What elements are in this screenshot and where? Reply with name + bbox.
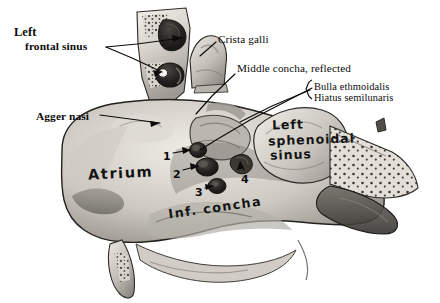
label-frontal-sinus: frontal sinus <box>25 40 87 52</box>
label-hiatus-semilunaris: Hiatus semilunaris <box>314 92 393 103</box>
label-crista-galli: Crista galli <box>218 33 269 45</box>
label-middle-concha-reflected: Middle concha, reflected <box>237 62 351 74</box>
label-bulla-ethmoidalis: Bulla ethmoidalis <box>314 81 389 92</box>
callout-number-3: 3 <box>195 186 203 199</box>
drawn-label-sphenoidal-line1: Left <box>272 116 304 132</box>
callout-number-1: 1 <box>163 150 171 163</box>
callout-number-4: 4 <box>241 173 249 186</box>
label-left: Left <box>14 26 36 39</box>
callout-number-2: 2 <box>173 168 181 181</box>
anatomical-figure: Left frontal sinus Agger nasi Crista gal… <box>0 0 440 303</box>
drawn-label-atrium: Atrium <box>88 163 154 182</box>
label-agger-nasi: Agger nasi <box>36 110 89 122</box>
drawn-label-sphenoidal-line3: sinus <box>270 146 312 162</box>
